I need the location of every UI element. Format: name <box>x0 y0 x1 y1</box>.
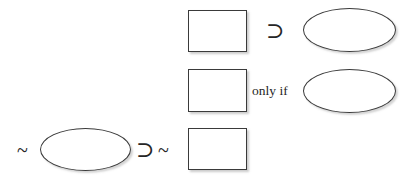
horseshoe-symbol-1: ⊃ <box>266 20 284 42</box>
only-if-text: only if <box>252 84 288 98</box>
tilde-symbol-2: ~ <box>158 140 169 160</box>
tilde-symbol-1: ~ <box>17 140 28 160</box>
square-placeholder-1 <box>188 10 247 52</box>
horseshoe-symbol-2: ⊃ <box>136 139 154 161</box>
square-placeholder-2 <box>188 69 247 112</box>
square-placeholder-3 <box>188 128 247 170</box>
ellipse-placeholder-1 <box>303 8 396 52</box>
diagram-canvas: ⊃ only if ~ ⊃ ~ <box>0 0 415 184</box>
ellipse-placeholder-2 <box>303 69 396 113</box>
ellipse-placeholder-3 <box>40 128 131 171</box>
